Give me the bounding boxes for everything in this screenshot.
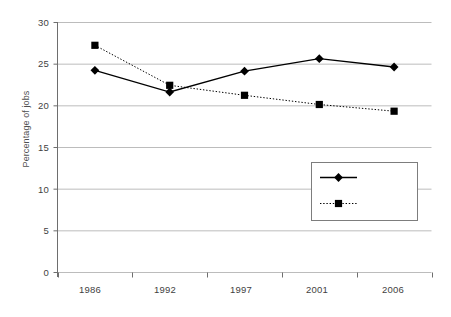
- x-axis-ticks: [59, 273, 433, 278]
- series-layer: [91, 42, 399, 115]
- data-point-0-1: [165, 88, 174, 97]
- data-point-1-1: [166, 82, 173, 89]
- data-point-0-0: [91, 66, 100, 75]
- data-point-1-4: [391, 108, 398, 115]
- legend-box: [312, 163, 418, 221]
- data-point-0-2: [240, 67, 249, 76]
- legend-marker-1: [335, 200, 342, 207]
- gridlines: [58, 23, 432, 273]
- data-point-0-3: [315, 54, 324, 63]
- plot-area: [0, 0, 451, 317]
- y-axis-ticks: [54, 23, 58, 273]
- chart-figure: Percentage of jobs 30 25 20 15 10 5 0 19…: [0, 0, 451, 317]
- series-line-1: [95, 45, 394, 111]
- data-point-1-3: [316, 101, 323, 108]
- data-point-1-2: [241, 92, 248, 99]
- data-point-1-0: [91, 42, 98, 49]
